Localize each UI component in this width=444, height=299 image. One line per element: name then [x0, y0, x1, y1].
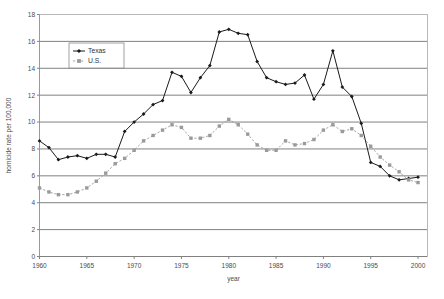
data-point-marker [66, 193, 69, 196]
data-point-marker [369, 145, 372, 148]
data-point-marker [378, 155, 381, 158]
y-tick-label: 0 [31, 253, 35, 260]
data-point-marker [416, 181, 419, 184]
data-point-marker [208, 134, 211, 137]
y-tick-label: 12 [28, 92, 36, 99]
y-tick-label: 4 [31, 199, 35, 206]
data-point-marker [265, 149, 268, 152]
data-point-marker [274, 149, 277, 152]
x-tick-label: 1965 [80, 262, 95, 269]
data-point-marker [397, 170, 400, 173]
data-point-marker [189, 136, 192, 139]
legend-label-0: Texas [88, 47, 106, 54]
y-tick-label: 10 [28, 118, 36, 125]
data-point-marker [199, 136, 202, 139]
x-axis-title: year [227, 275, 240, 283]
x-tick-label: 1960 [32, 262, 47, 269]
data-point-marker [47, 190, 50, 193]
y-tick-label: 8 [31, 145, 35, 152]
data-point-marker [322, 128, 325, 131]
data-point-marker [151, 134, 154, 137]
x-tick-label: 1970 [127, 262, 142, 269]
y-tick-label: 2 [31, 226, 35, 233]
data-point-marker [85, 186, 88, 189]
chart-legend: TexasU.S. [69, 43, 124, 68]
data-point-marker [303, 142, 306, 145]
data-point-marker [237, 123, 240, 126]
data-point-marker [218, 124, 221, 127]
x-tick-label: 1975 [174, 262, 189, 269]
y-tick-label: 16 [28, 38, 36, 45]
x-tick-label: 1990 [316, 262, 331, 269]
y-tick-label: 14 [28, 65, 36, 72]
homicide-rate-line-chart: 0246810121416181960196519701975198019851… [0, 0, 444, 299]
x-tick-label: 2000 [411, 262, 426, 269]
data-point-marker [95, 180, 98, 183]
data-point-marker [104, 171, 107, 174]
y-axis-ticks: 024681012141618 [28, 11, 40, 260]
data-point-marker [57, 193, 60, 196]
data-point-marker [246, 132, 249, 135]
y-tick-label: 18 [28, 11, 36, 18]
data-point-marker [407, 178, 410, 181]
x-tick-label: 1995 [363, 262, 378, 269]
data-point-marker [114, 162, 117, 165]
data-point-marker [180, 126, 183, 129]
data-point-marker [227, 118, 230, 121]
data-point-marker [161, 128, 164, 131]
chart-canvas: 0246810121416181960196519701975198019851… [0, 0, 444, 299]
data-point-marker [132, 149, 135, 152]
square-marker-icon [77, 59, 81, 63]
x-axis-ticks: 196019651970197519801985199019952000 [32, 257, 425, 269]
legend-label-1: U.S. [88, 57, 101, 64]
data-point-marker [388, 163, 391, 166]
x-tick-label: 1985 [269, 262, 284, 269]
y-axis-title: homicide rate per 100,000 [5, 97, 13, 173]
data-point-marker [123, 157, 126, 160]
data-point-marker [312, 138, 315, 141]
y-tick-label: 6 [31, 172, 35, 179]
data-point-marker [331, 123, 334, 126]
data-point-marker [350, 127, 353, 130]
data-point-marker [293, 143, 296, 146]
data-point-marker [255, 143, 258, 146]
data-point-marker [142, 139, 145, 142]
data-point-marker [170, 123, 173, 126]
data-point-marker [76, 190, 79, 193]
data-point-marker [360, 134, 363, 137]
data-point-marker [38, 186, 41, 189]
data-point-marker [341, 130, 344, 133]
data-point-marker [284, 139, 287, 142]
x-tick-label: 1980 [222, 262, 237, 269]
